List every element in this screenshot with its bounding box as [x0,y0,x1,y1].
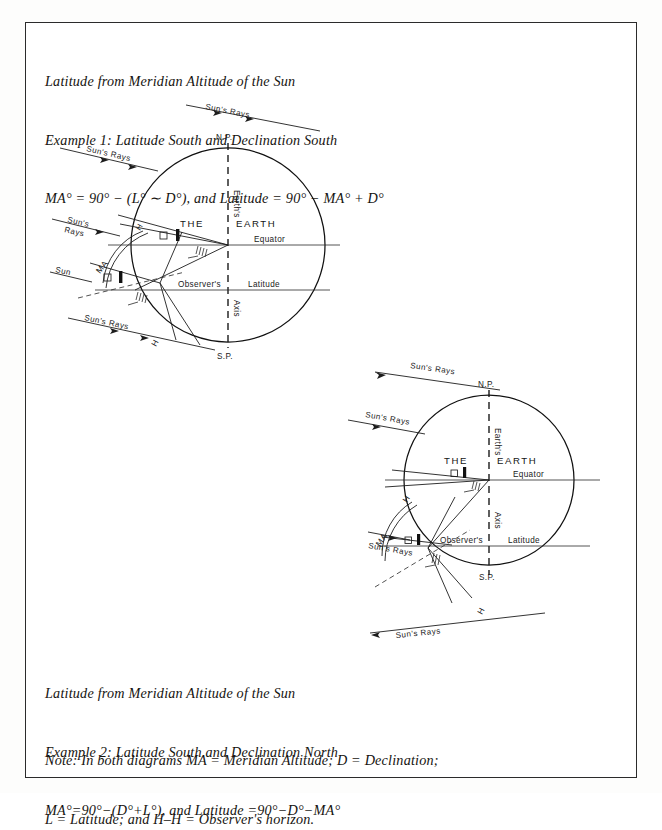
south-pole-label-1: S.P. [217,352,233,361]
latitude-label-2: Latitude [508,536,540,545]
earth-title-the-2: THE [444,455,468,466]
ma-arc-1-inner [106,233,148,288]
sun-rays-label-1: Sun's Rays [205,102,251,119]
nadir-line-1b [160,283,200,345]
north-pole-label-2: N.P. [478,380,494,389]
right-angle-marker-2a [451,470,458,477]
earth-title-earth-2: EARTH [497,455,537,466]
nadir-line-1 [160,283,176,340]
north-pole-label-1: N.P. [216,133,232,142]
angle-tick-bar-1a [176,229,179,241]
earth-axis-label-1b: Axis [232,300,241,317]
sun-label-1: Sun [55,265,72,277]
equator-label-1: Equator [254,235,285,244]
earth-axis-label-2b: Axis [493,512,502,529]
horizon-label-top-1: H [134,222,145,232]
diagram-1-group: Sun's Rays Sun's Rays Sun's Rays Sun Sun… [50,102,340,361]
diagram-2-group: Sun's Rays Sun's Rays Sun's Rays Sun's R… [348,361,600,640]
earth-axis-label-1a: Earth's [232,190,241,218]
note-line-2: L = Latitude; and H–H = Observer's horiz… [45,810,439,830]
observers-label-1: Observer's [178,280,221,289]
angle-tick-bar-2a [463,467,466,478]
horizon-hh-1 [78,272,185,298]
sun-rays-label-4: Sun's Rays [84,313,130,331]
equator-label-2: Equator [513,470,544,479]
ma-label-1: MA [94,258,110,275]
sun-rays-label-2-1: Sun's Rays [410,361,456,376]
horizon-label-bottom-2: H [476,606,487,616]
earth-title-earth-1: EARTH [236,218,276,229]
sun-ray-arrow-3a [95,229,104,235]
angle-hatch-2a [464,481,480,492]
sun-rays-label-2-4: Sun's Rays [395,626,441,640]
sun-rays-label-2: Sun's Rays [86,144,132,163]
angle-tick-bar-2b [417,534,420,545]
horizon-label-bottom-1: H [150,338,161,348]
latitude-label-1: Latitude [248,280,280,289]
declination-ray-2 [392,470,489,480]
earth-title-the-1: THE [180,218,204,229]
south-pole-label-2: S.P. [479,573,495,582]
angle-hatch-2b [425,553,440,567]
earth-axis-label-2a: Earth's [493,428,502,456]
sun-ray-arrow-4b [140,335,149,341]
angle-tick-bar-1b [119,271,122,283]
observers-label-2: Observer's [440,536,483,545]
